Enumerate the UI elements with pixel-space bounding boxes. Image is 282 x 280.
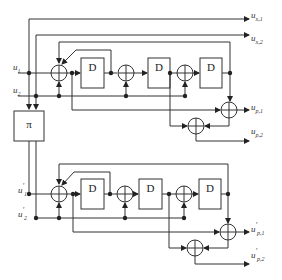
delay-upper-2: D	[148, 62, 170, 73]
input-u2-prime-label: u'2	[18, 207, 27, 221]
output-up2-label: up,2	[251, 127, 263, 138]
output-ux2-label: ux,2	[251, 34, 263, 45]
input-u2-label: u2	[13, 86, 21, 97]
delay-lower-3: D	[199, 183, 221, 194]
input-u1-prime-label: u'1	[18, 183, 27, 197]
output-up1-label: up,1	[251, 103, 263, 114]
output-up2-prime-label: u'p,2	[251, 248, 265, 262]
delay-upper-3: D	[200, 62, 222, 73]
input-u1-label: u1	[13, 63, 21, 74]
delay-upper-1: D	[81, 62, 104, 73]
output-ux1-label: ux,1	[251, 11, 263, 22]
delay-lower-1: D	[81, 183, 104, 194]
diagram-canvas	[0, 0, 282, 280]
output-up1-prime-label: u'p,1	[251, 222, 265, 236]
delay-lower-2: D	[139, 183, 162, 194]
interleaver-label: π	[14, 119, 44, 130]
